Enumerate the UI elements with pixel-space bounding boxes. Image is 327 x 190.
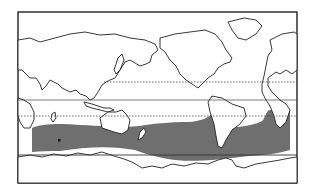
world-map	[0, 0, 327, 190]
small-dot-marker	[58, 139, 61, 142]
